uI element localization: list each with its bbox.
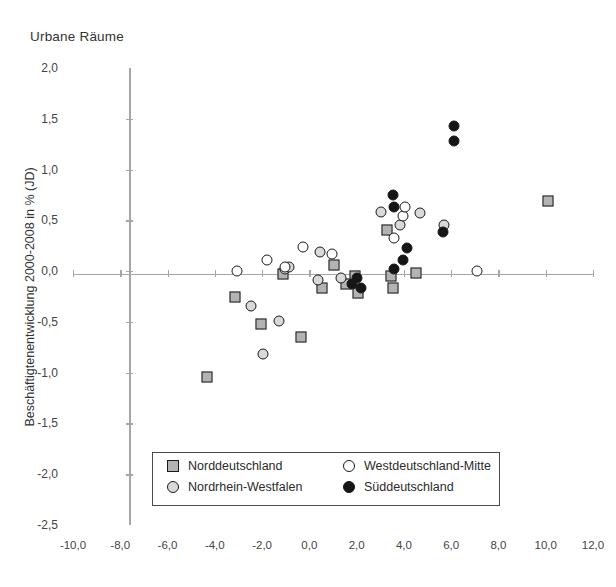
y-axis-tick <box>126 474 133 475</box>
x-axis-label: -2,0 <box>239 539 285 551</box>
x-axis-tick <box>404 270 405 277</box>
x-axis-label: 12,0 <box>570 539 616 551</box>
x-axis-label: -8,0 <box>97 539 143 551</box>
x-axis-line <box>73 274 593 276</box>
legend-item[interactable]: Norddeutschland <box>167 459 283 473</box>
data-point <box>356 283 367 294</box>
y-axis-label: 0,0 <box>18 264 58 278</box>
y-axis-tick <box>126 322 133 323</box>
y-axis-label: 1,5 <box>18 112 58 126</box>
y-axis-label: 1,0 <box>18 163 58 177</box>
y-axis-label: -1,5 <box>18 416 58 430</box>
x-axis-label: 10,0 <box>523 539 569 551</box>
legend-box: NorddeutschlandNordrhein-WestfalenWestde… <box>152 452 500 506</box>
y-axis-label: 2,0 <box>18 61 58 75</box>
data-point <box>400 202 411 213</box>
data-point <box>351 273 362 284</box>
data-point <box>312 275 323 286</box>
x-axis-tick <box>73 270 74 277</box>
data-point <box>315 246 326 257</box>
y-axis-tick <box>126 220 133 221</box>
y-axis-line <box>129 68 131 525</box>
scatter-chart: Urbane Räume Beschäftigtenentwicklung 20… <box>0 0 616 587</box>
data-point <box>397 254 408 265</box>
x-axis-tick <box>498 270 499 277</box>
legend-item-label: Norddeutschland <box>188 459 283 473</box>
y-axis-tick <box>126 271 133 272</box>
chart-title: Urbane Räume <box>30 29 124 44</box>
legend-item[interactable]: Nordrhein-Westfalen <box>167 480 302 494</box>
x-axis-tick <box>593 270 594 277</box>
legend-marker-icon <box>167 460 179 472</box>
y-axis-label: -0,5 <box>18 315 58 329</box>
x-axis-label: 8,0 <box>475 539 521 551</box>
legend-marker-icon <box>343 460 355 472</box>
y-axis-tick <box>126 119 133 120</box>
data-point <box>258 349 269 360</box>
y-axis-label: -2,5 <box>18 518 58 532</box>
data-point <box>296 332 307 343</box>
data-point <box>376 207 387 218</box>
data-point <box>246 300 257 311</box>
x-axis-label: 4,0 <box>381 539 427 551</box>
data-point <box>437 226 448 237</box>
data-point <box>255 318 266 329</box>
data-point <box>326 248 337 259</box>
data-point <box>448 120 459 131</box>
x-axis-tick <box>451 270 452 277</box>
data-point <box>389 264 400 275</box>
legend-item-label: Nordrhein-Westfalen <box>188 480 302 494</box>
legend-item-label: Süddeutschland <box>364 480 454 494</box>
x-axis-tick <box>168 270 169 277</box>
x-axis-label: 2,0 <box>334 539 380 551</box>
x-axis-tick <box>215 270 216 277</box>
x-axis-tick <box>120 270 121 277</box>
data-point <box>389 232 400 243</box>
data-point <box>232 266 243 277</box>
y-axis-label: -2,0 <box>18 467 58 481</box>
data-point <box>388 283 399 294</box>
data-point <box>279 262 290 273</box>
y-axis-tick <box>126 423 133 424</box>
y-axis-tick <box>126 170 133 171</box>
legend-marker-icon <box>167 481 179 493</box>
y-axis-tick <box>126 373 133 374</box>
legend-item-label: Westdeutschland-Mitte <box>364 459 491 473</box>
x-axis-label: 6,0 <box>428 539 474 551</box>
data-point <box>410 268 421 279</box>
data-point <box>329 260 340 271</box>
x-axis-label: -4,0 <box>192 539 238 551</box>
data-point <box>336 273 347 284</box>
data-point <box>229 291 240 302</box>
x-axis-tick <box>262 270 263 277</box>
legend-item[interactable]: Westdeutschland-Mitte <box>343 459 491 473</box>
data-point <box>388 189 399 200</box>
x-axis-label: -10,0 <box>50 539 96 551</box>
y-axis-label: -1,0 <box>18 366 58 380</box>
legend-item[interactable]: Süddeutschland <box>343 480 454 494</box>
data-point <box>448 136 459 147</box>
data-point <box>415 208 426 219</box>
data-point <box>472 266 483 277</box>
data-point <box>201 371 212 382</box>
data-point <box>543 196 554 207</box>
x-axis-tick <box>546 270 547 277</box>
legend-marker-icon <box>343 481 355 493</box>
data-point <box>298 241 309 252</box>
data-point <box>389 202 400 213</box>
y-axis-label: 0,5 <box>18 213 58 227</box>
data-point <box>273 315 284 326</box>
data-point <box>261 254 272 265</box>
x-axis-label: 0,0 <box>286 539 332 551</box>
data-point <box>402 242 413 253</box>
x-axis-tick <box>309 270 310 277</box>
x-axis-label: -6,0 <box>145 539 191 551</box>
